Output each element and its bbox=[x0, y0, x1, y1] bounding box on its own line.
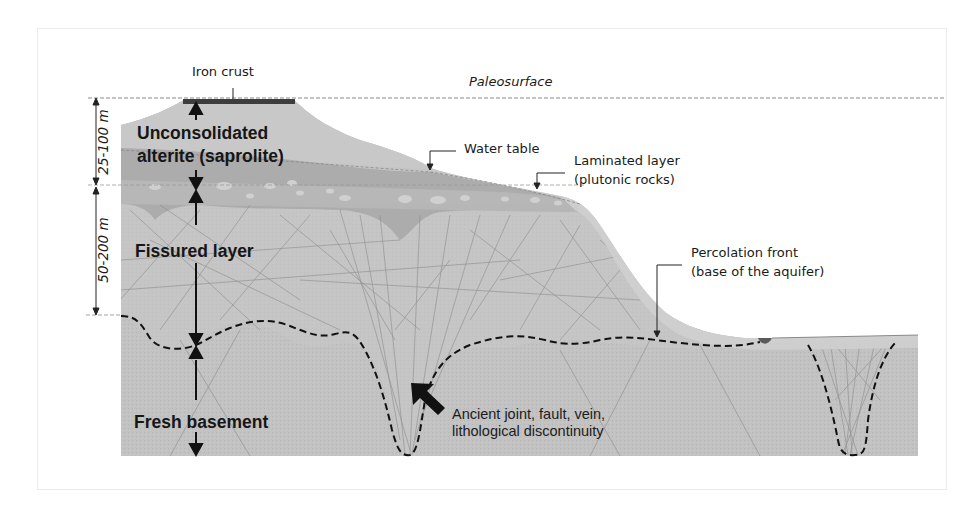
laminated-layer-label-line1: Laminated layer bbox=[574, 151, 680, 170]
saprolite-layer-label-line2: alterite (saprolite) bbox=[137, 146, 284, 167]
percolation-front-label-line1: Percolation front bbox=[691, 243, 798, 262]
iron-crust bbox=[183, 99, 295, 104]
laminated-layer-label-line2: (plutonic rocks) bbox=[574, 170, 675, 189]
fissured-layer-label: Fissured layer bbox=[135, 241, 254, 262]
water-table-label: Water table bbox=[464, 139, 540, 158]
saprolite-thickness-label: 25-100 m bbox=[95, 102, 113, 182]
discontinuity-label-line2: lithological discontinuity bbox=[452, 423, 604, 440]
discontinuity-label-line1: Ancient joint, fault, vein, bbox=[452, 406, 605, 423]
fresh-basement-label: Fresh basement bbox=[134, 412, 268, 433]
iron-crust-label: Iron crust bbox=[192, 62, 254, 81]
fissured-thickness-label: 50-200 m bbox=[95, 210, 113, 290]
paleosurface-label: Paleosurface bbox=[469, 72, 552, 91]
saprolite-layer-label-line1: Unconsolidated bbox=[137, 123, 268, 144]
percolation-front-label-line2: (base of the aquifer) bbox=[691, 262, 824, 281]
